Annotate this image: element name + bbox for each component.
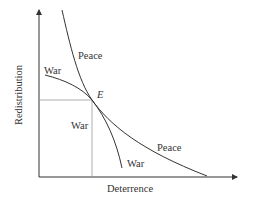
equilibrium-point-label: E [97, 90, 103, 101]
peace-upper-label: Peace [78, 51, 102, 62]
diagram-figure: Peace War E War Peace War Deterrence Red… [0, 0, 255, 205]
x-axis-label: Deterrence [107, 184, 153, 195]
war-region-label: War [71, 121, 88, 132]
y-axis-label: Redistribution [14, 65, 25, 125]
peace-lower-label: Peace [157, 143, 181, 154]
war-lower-label: War [127, 159, 144, 170]
peace-curve [62, 10, 207, 176]
war-upper-label: War [44, 66, 61, 77]
diagram-canvas [0, 0, 255, 205]
